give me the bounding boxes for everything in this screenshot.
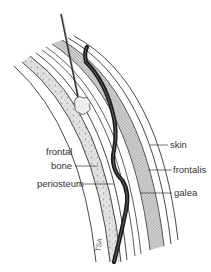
- label-skin: skin: [170, 140, 187, 150]
- tissue-fragment: [74, 97, 90, 115]
- artist-signature: TSA: [94, 237, 103, 252]
- svg-text:TSA: TSA: [94, 237, 103, 252]
- label-frontalis: frontalis: [173, 165, 206, 175]
- label-periosteum: periosteum: [37, 179, 84, 189]
- label-frontal-bone-line2: bone: [51, 161, 72, 171]
- label-frontal-bone-line1: frontal: [46, 147, 72, 157]
- anatomy-illustration: TSA: [0, 0, 211, 272]
- label-galea: galea: [174, 188, 197, 198]
